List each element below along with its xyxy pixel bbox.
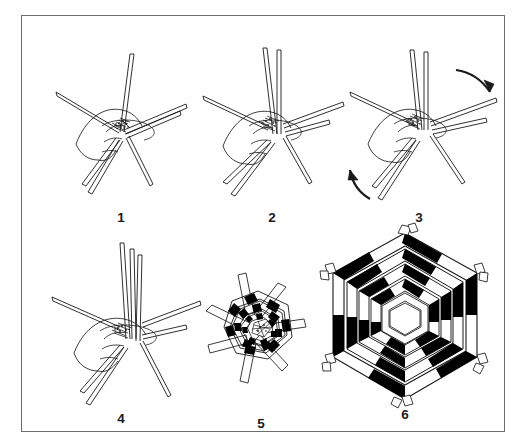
panel-4-artwork <box>46 231 206 416</box>
panel-2-artwork <box>197 34 347 209</box>
panel-6: 6 <box>310 221 500 411</box>
panel-1-artwork <box>46 34 196 209</box>
panel-5-label: 5 <box>249 416 273 431</box>
panel-5: 5 <box>192 261 327 411</box>
panel-6-artwork <box>310 221 500 411</box>
panel-2-label: 2 <box>260 210 284 225</box>
arrow-bottom-left-icon <box>348 170 370 199</box>
panel-3-artwork <box>344 34 504 209</box>
panel-4: 4 <box>46 231 206 416</box>
panel-1: 1 <box>46 34 196 209</box>
panel-6-label: 6 <box>393 407 417 422</box>
panel-3: 3 <box>344 34 504 209</box>
instructional-figure: 1 <box>0 0 517 446</box>
panel-5-artwork <box>192 261 327 411</box>
arrow-top-right-icon <box>456 70 494 92</box>
figure-border: 1 <box>21 15 505 432</box>
panel-2: 2 <box>197 34 347 209</box>
panel-4-label: 4 <box>109 411 133 426</box>
panel-1-label: 1 <box>109 210 133 225</box>
